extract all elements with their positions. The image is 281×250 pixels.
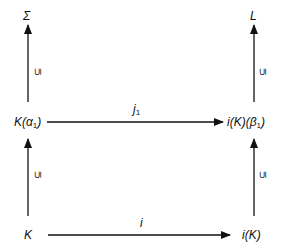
node-iK-beta1-prefix: i(K)( [227, 115, 250, 129]
node-sigma-text: Σ [23, 9, 30, 23]
node-K: K [24, 229, 32, 241]
edge-label-j1-sub: 1 [136, 108, 140, 117]
edge-label-subset-left-upper: ⊆ [33, 68, 43, 76]
node-iK-text: i(K) [242, 228, 261, 242]
edge-label-j1: j1 [133, 103, 140, 119]
edge-label-i: i [140, 217, 143, 229]
node-K-alpha1-suffix: ) [37, 115, 41, 129]
edge-label-subset-left-lower: ⊆ [33, 171, 43, 179]
node-iK-beta1: i(K)(β1) [227, 116, 265, 132]
node-L: L [250, 10, 257, 22]
node-K-alpha1-greek: α [26, 115, 33, 129]
node-K-text: K [24, 228, 32, 242]
edge-label-subset-right-lower: ⊆ [258, 171, 268, 179]
node-iK-beta1-greek: β [250, 115, 257, 129]
edge-label-subset-right-upper: ⊆ [258, 68, 268, 76]
node-iK: i(K) [242, 229, 261, 241]
node-sigma: Σ [23, 10, 30, 22]
node-L-text: L [250, 9, 257, 23]
edge-label-i-text: i [140, 216, 143, 230]
node-iK-beta1-suffix: ) [261, 115, 265, 129]
node-K-alpha1-prefix: K( [14, 115, 26, 129]
node-K-alpha1: K(α1) [14, 116, 41, 132]
